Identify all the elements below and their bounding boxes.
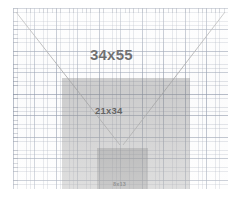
label-mid-rectangle: 21x34 bbox=[95, 105, 122, 116]
diagram-canvas: 34x55 21x34 8x13 bbox=[0, 0, 238, 200]
label-outer-rectangle: 34x55 bbox=[90, 46, 133, 63]
label-inner-rectangle: 8x13 bbox=[113, 181, 126, 187]
graph-paper-sheet: 34x55 21x34 8x13 bbox=[13, 8, 228, 189]
